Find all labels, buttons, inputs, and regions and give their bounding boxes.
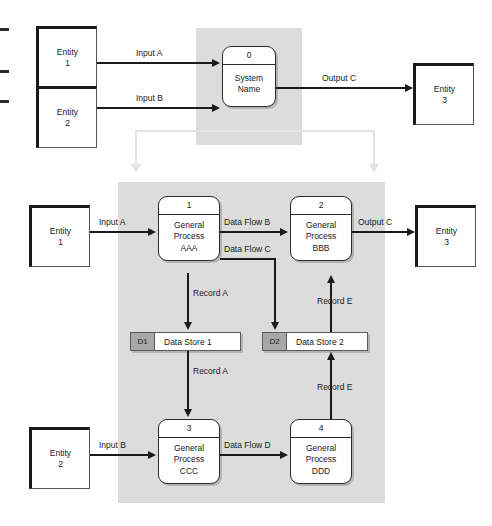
flow-label-l0-data-flow-d: Data Flow D	[224, 440, 271, 450]
flow-arrow-l0-input-b	[148, 451, 156, 459]
scan-edge-mark	[0, 70, 9, 73]
entity-label-line2: 3	[436, 237, 457, 248]
process-name-line2: Name	[238, 84, 261, 94]
level0-data-store-d1[interactable]: D1 Data Store 1	[130, 332, 241, 351]
process-number: 1	[159, 197, 219, 215]
flow-label-l0-data-flow-b: Data Flow B	[224, 217, 270, 227]
flow-arrow-l0-record-e-out	[327, 352, 335, 360]
process-name-line2: Process	[174, 231, 205, 241]
context-entity-1[interactable]: Entity 1	[36, 26, 97, 88]
entity-label-line2: 2	[57, 118, 78, 129]
level0-entity-1[interactable]: Entity 1	[29, 205, 90, 267]
flow-arrow-l0-data-flow-b	[280, 228, 288, 236]
flow-line-l0-data-flow-d	[220, 454, 282, 456]
data-store-id: D1	[131, 333, 155, 350]
level0-process-4[interactable]: 4 General Process DDD	[290, 419, 352, 484]
process-number: 3	[159, 420, 219, 438]
process-name-line1: General	[306, 443, 336, 453]
data-store-label: Data Store 1	[155, 333, 240, 350]
context-process-0[interactable]: 0 System Name	[222, 46, 276, 107]
process-name-line1: General	[306, 220, 336, 230]
process-name: General Process BBB	[291, 215, 351, 260]
flow-line-ctx-input-a	[97, 62, 214, 64]
flow-label-ctx-input-a: Input A	[136, 48, 162, 58]
decomposition-arrow-left	[131, 164, 141, 173]
flow-label-l0-input-b: Input B	[99, 440, 126, 450]
decomposition-arrow-right	[369, 164, 379, 173]
entity-label-line1: Entity	[57, 47, 78, 58]
entity-label-line2: 3	[434, 95, 455, 106]
level0-process-3[interactable]: 3 General Process CCC	[158, 419, 220, 484]
process-name-line3: DDD	[312, 466, 330, 476]
process-name-line3: AAA	[180, 243, 197, 253]
flow-line-l0-record-a-out	[187, 351, 189, 411]
flow-line-ctx-output-c	[276, 87, 409, 89]
scan-edge-mark	[0, 28, 9, 31]
scan-edge-mark	[0, 100, 9, 103]
flow-line-l0-output-c	[352, 231, 411, 233]
flow-arrow-ctx-input-b	[212, 104, 220, 112]
process-name: General Process DDD	[291, 438, 351, 483]
flow-label-l0-record-a-in: Record A	[193, 288, 228, 298]
flow-label-l0-record-a-out: Record A	[193, 366, 228, 376]
entity-label-line2: 2	[50, 459, 71, 470]
process-name-line1: System	[235, 73, 263, 83]
flow-arrow-l0-record-a-in	[184, 322, 192, 330]
level0-process-2[interactable]: 2 General Process BBB	[290, 196, 352, 261]
flow-arrow-l0-data-flow-c	[271, 322, 279, 330]
flow-line-l0-record-e-in	[330, 283, 332, 332]
process-name-line2: Process	[306, 231, 337, 241]
process-name: General Process CCC	[159, 438, 219, 483]
entity-label-line1: Entity	[50, 448, 71, 459]
level0-entity-2[interactable]: Entity 2	[29, 427, 90, 489]
entity-label-line1: Entity	[434, 84, 455, 95]
process-name-line2: Process	[174, 454, 205, 464]
entity-label-line2: 1	[50, 237, 71, 248]
flow-line-l0-data-flow-c-vertical	[274, 258, 276, 324]
flow-arrow-ctx-input-a	[212, 59, 220, 67]
entity-label-line1: Entity	[57, 107, 78, 118]
flow-line-l0-input-a	[90, 231, 150, 233]
context-entity-2[interactable]: Entity 2	[36, 86, 97, 148]
process-name-line3: BBB	[312, 243, 329, 253]
process-number: 4	[291, 420, 351, 438]
dfd-canvas: Entity 1 Entity 2 Entity 3 0 System Name…	[0, 0, 492, 526]
flow-arrow-l0-data-flow-d	[280, 451, 288, 459]
level0-process-1[interactable]: 1 General Process AAA	[158, 196, 220, 261]
flow-label-l0-record-e-out: Record E	[317, 382, 352, 392]
flow-arrow-l0-output-c	[407, 228, 415, 236]
flow-arrow-l0-record-e-in	[327, 275, 335, 283]
flow-arrow-ctx-output-c	[405, 84, 413, 92]
entity-label-line1: Entity	[50, 226, 71, 237]
flow-label-l0-record-e-in: Record E	[317, 296, 352, 306]
flow-arrow-l0-input-a	[148, 228, 156, 236]
flow-arrow-l0-record-a-out	[184, 409, 192, 417]
data-store-label: Data Store 2	[287, 333, 367, 350]
process-name-line2: Process	[306, 454, 337, 464]
decomposition-connector-left-vertical	[135, 130, 137, 166]
flow-label-l0-data-flow-c: Data Flow C	[224, 244, 271, 254]
level0-data-store-d2[interactable]: D2 Data Store 2	[262, 332, 368, 351]
flow-line-l0-data-flow-c-horizontal	[220, 258, 276, 260]
decomposition-connector-horizontal	[135, 130, 375, 132]
flow-label-ctx-output-c: Output C	[322, 73, 356, 83]
process-name-line1: General	[174, 443, 204, 453]
decomposition-connector-right-vertical	[373, 130, 375, 166]
context-entity-3[interactable]: Entity 3	[413, 63, 474, 125]
level0-entity-3[interactable]: Entity 3	[415, 205, 476, 267]
flow-line-ctx-input-b	[97, 107, 214, 109]
process-number: 0	[223, 47, 275, 65]
data-store-id: D2	[263, 333, 287, 350]
process-name: System Name	[223, 65, 275, 106]
entity-label-line1: Entity	[436, 226, 457, 237]
flow-line-l0-data-flow-b	[220, 231, 282, 233]
flow-line-l0-input-b	[90, 454, 150, 456]
process-number: 2	[291, 197, 351, 215]
flow-line-l0-record-a-in	[187, 273, 189, 324]
flow-label-l0-input-a: Input A	[99, 217, 125, 227]
process-name-line1: General	[174, 220, 204, 230]
process-name-line3: CCC	[180, 466, 198, 476]
entity-label-line2: 1	[57, 58, 78, 69]
flow-label-l0-output-c: Output C	[358, 217, 392, 227]
process-name: General Process AAA	[159, 215, 219, 260]
